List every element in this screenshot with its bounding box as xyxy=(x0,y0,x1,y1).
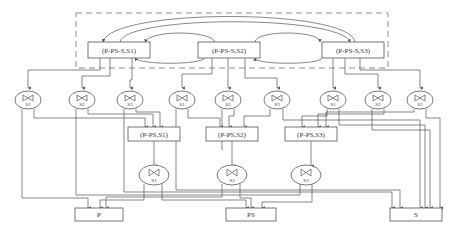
output-box-ps: PS xyxy=(226,208,276,221)
output-box-s-label: S xyxy=(414,211,418,219)
svg-text:S3: S3 xyxy=(303,178,309,183)
svg-text:S2: S2 xyxy=(225,102,231,107)
connections-top-to-valves xyxy=(28,58,420,88)
svg-text:S2: S2 xyxy=(229,178,235,183)
valve-icon: S3 xyxy=(291,165,321,185)
output-box-s: S xyxy=(390,208,442,221)
middle-box-2-label: (P-PS,S2) xyxy=(218,131,246,139)
middle-box-3: (P-PS,S3) xyxy=(285,127,337,141)
svg-text:S3: S3 xyxy=(274,102,280,107)
top-box-2-label: (P-PS-S,S2) xyxy=(212,47,247,55)
svg-text:S2: S2 xyxy=(79,102,85,107)
middle-box-1: (P-PS,S1) xyxy=(128,127,180,141)
valve-icon: S2 xyxy=(365,91,391,109)
connections-valves2-to-outputs xyxy=(22,184,392,208)
valves-row-1: S1 S2 S3 S1 S2 S3 S1 S2 S3 xyxy=(15,91,433,109)
top-box-1-label: (P-PS-S,S1) xyxy=(102,47,137,55)
valve-icon: S1 xyxy=(169,91,195,109)
valve-icon: S2 xyxy=(69,91,95,109)
svg-text:S1: S1 xyxy=(25,102,31,107)
connections-middle-to-valves2 xyxy=(154,141,311,166)
connections-valves-to-middle xyxy=(22,109,440,208)
middle-box-3-label: (P-PS,S3) xyxy=(297,131,325,139)
middle-box-1-label: (P-PS,S1) xyxy=(140,131,168,139)
top-box-1: (P-PS-S,S1) xyxy=(88,42,150,58)
top-box-3: (P-PS-S,S3) xyxy=(322,42,384,58)
svg-text:S1: S1 xyxy=(179,102,185,107)
valve-icon: S2 xyxy=(217,165,247,185)
svg-text:S1: S1 xyxy=(151,178,157,183)
svg-text:S3: S3 xyxy=(417,102,423,107)
output-box-p: P xyxy=(75,208,123,221)
svg-text:S1: S1 xyxy=(330,102,336,107)
top-box-3-label: (P-PS-S,S3) xyxy=(336,47,371,55)
top-box-2: (P-PS-S,S2) xyxy=(198,42,260,58)
valve-icon: S2 xyxy=(215,91,241,109)
dashed-group-boundary xyxy=(76,13,388,68)
process-diagram: (P-PS-S,S1) (P-PS-S,S2) (P-PS-S,S3) S1 S… xyxy=(0,0,458,234)
valve-icon: S3 xyxy=(407,91,433,109)
valve-icon: S1 xyxy=(320,91,346,109)
svg-text:S2: S2 xyxy=(375,102,381,107)
output-box-ps-label: PS xyxy=(247,211,255,219)
valve-icon: S3 xyxy=(117,91,143,109)
svg-text:S3: S3 xyxy=(127,102,133,107)
valve-icon: S1 xyxy=(139,165,169,185)
valve-icon: S3 xyxy=(264,91,290,109)
output-box-p-label: P xyxy=(97,211,101,219)
valve-icon: S1 xyxy=(15,91,41,109)
middle-box-2: (P-PS,S2) xyxy=(206,127,258,141)
valves-row-2: S1 S2 S3 xyxy=(139,165,321,185)
